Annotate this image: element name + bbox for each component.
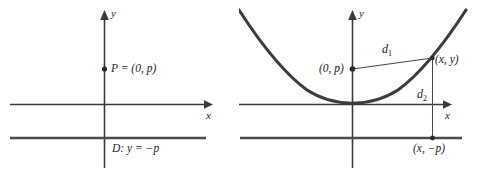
distance-d2-label: d2 — [417, 88, 427, 103]
distance-d1-segment — [353, 58, 433, 69]
curve-point-label: (x, y) — [435, 54, 459, 66]
distance-d2-subscript: 2 — [423, 94, 427, 103]
right-x-axis-label: x — [445, 110, 450, 121]
parabola-figure: x y P = (0, p) D: y = −p — [0, 0, 478, 178]
left-panel: x y P = (0, p) D: y = −p — [0, 0, 239, 178]
distance-d1-subscript: 1 — [388, 49, 392, 58]
right-y-axis-label: y — [359, 8, 364, 19]
right-panel: x y (0, p) (x, y) (x, −p) d1 d2 — [239, 0, 478, 178]
left-focus-point — [102, 66, 107, 71]
left-x-axis — [10, 100, 213, 109]
distance-d1-label: d1 — [382, 43, 392, 58]
foot-point-label: (x, −p) — [413, 143, 445, 155]
right-y-axis — [348, 10, 357, 168]
left-x-axis-label: x — [206, 110, 211, 121]
left-focus-point-label: P = (0, p) — [111, 63, 156, 75]
right-focus-point — [350, 66, 356, 72]
left-y-axis — [100, 10, 109, 168]
left-y-axis-label: y — [111, 8, 116, 19]
right-focus-label: (0, p) — [319, 63, 344, 75]
left-directrix-label: D: y = −p — [112, 143, 159, 155]
foot-point — [430, 136, 435, 141]
